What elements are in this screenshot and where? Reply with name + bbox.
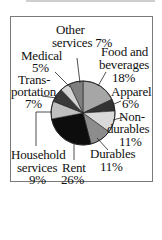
leader-food xyxy=(98,72,106,86)
leader-medical xyxy=(55,72,70,87)
leader-other xyxy=(77,58,80,83)
leader-apparel xyxy=(114,101,121,104)
label-food-line3: 18% xyxy=(112,72,135,84)
leader-household xyxy=(36,112,52,146)
label-household-line3: 9% xyxy=(29,174,46,186)
label-rent-line2: 26% xyxy=(61,174,84,186)
pie-slices xyxy=(51,81,115,145)
label-transport-line3: 7% xyxy=(25,98,42,110)
label-durables-line2: 11% xyxy=(100,161,123,173)
